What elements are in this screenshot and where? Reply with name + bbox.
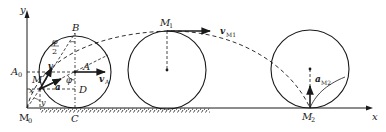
point-M-label: M [31, 74, 43, 85]
M2-label: M 2 [301, 111, 315, 124]
vM1-label: v M1 [220, 26, 236, 38]
cycloid-diagram: y x B A D C M A 0 M 0 v A v a φ φ 2 x y … [0, 0, 386, 132]
wheel-2 [128, 31, 210, 109]
svg-text:2: 2 [311, 116, 315, 124]
acceleration-a-label: a [55, 82, 61, 92]
svg-text:φ: φ [52, 37, 58, 46]
point-A-label: A [82, 61, 90, 72]
svg-text:1: 1 [169, 22, 173, 30]
vA-label: v A [99, 74, 110, 85]
wheel-3 [271, 30, 349, 108]
wheel-1 [27, 33, 111, 108]
aM2-label: a M2 [315, 74, 331, 86]
point-D-label: D [78, 84, 87, 95]
M1-label: M 1 [159, 17, 173, 30]
svg-text:A: A [10, 66, 18, 77]
svg-text:0: 0 [18, 71, 22, 79]
point-C-label: C [71, 113, 79, 124]
svg-text:0: 0 [28, 117, 32, 125]
A0-label: A 0 [10, 66, 22, 79]
point-B-label: B [71, 22, 79, 33]
x-axis-label: x [372, 111, 378, 122]
svg-text:A: A [104, 78, 110, 85]
y-axis-label: y [19, 4, 26, 15]
svg-text:M1: M1 [226, 31, 236, 38]
svg-text:M2: M2 [321, 79, 331, 86]
svg-text:2: 2 [52, 47, 57, 56]
M0-label: M 0 [19, 112, 32, 125]
x-axis-arrow-icon [366, 106, 373, 111]
coord-x-label: x [29, 86, 34, 95]
phi-label: φ [66, 75, 72, 85]
coord-y-label: y [40, 98, 46, 107]
